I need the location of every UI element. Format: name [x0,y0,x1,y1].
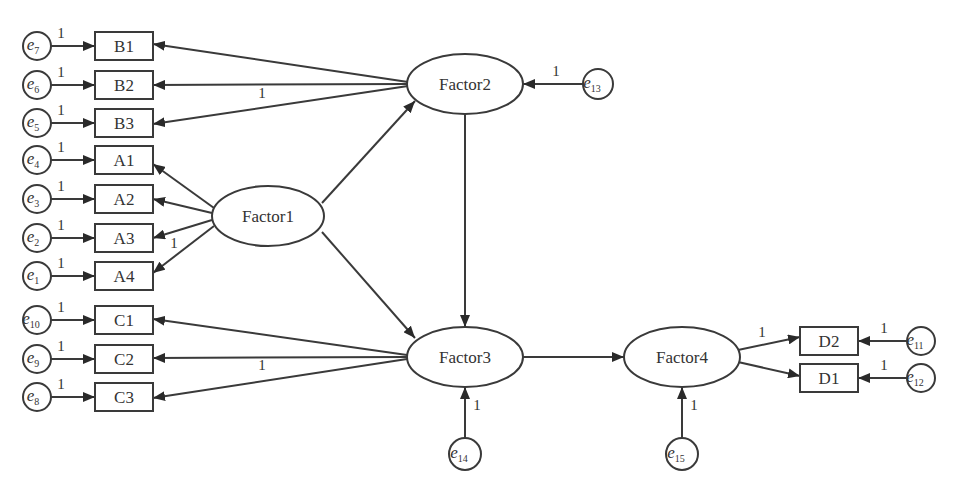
observed-label: C3 [114,388,134,407]
path-weight-label: 1 [57,299,65,315]
observed-variable-b1: B1 [95,32,153,60]
error-term-e10: e10 [22,306,51,334]
path-weight-label: 1 [258,85,266,101]
factor-label: Factor4 [656,348,708,367]
latent-factor-factor3: Factor3 [407,327,523,387]
observed-variable-a2: A2 [95,185,153,213]
error-term-e13: e13 [583,69,613,99]
observed-label: A1 [114,151,135,170]
error-subscript: 4 [34,159,39,170]
error-subscript: 12 [914,377,924,388]
error-term-e11: e11 [906,327,935,355]
error-term-e7: e7 [23,32,51,60]
path-arrow-factor1-to-a4 [153,226,214,273]
latent-factor-factor2: Factor2 [407,54,523,114]
path-weight-label: 1 [57,102,65,118]
error-subscript: 1 [34,275,39,286]
path-arrow-factor3-to-c2 [153,357,407,358]
factor-label: Factor2 [439,75,491,94]
observed-label: B3 [114,114,134,133]
path-weight-label: 1 [57,64,65,80]
path-weight-label: 1 [57,178,65,194]
path-arrow-factor4-to-d2 [738,337,800,350]
error-term-e4: e4 [23,146,51,174]
path-weight-label: 1 [758,324,766,340]
path-weight-label: 1 [57,255,65,271]
error-subscript: 8 [34,396,39,407]
observed-label: B1 [114,37,134,56]
error-term-e15: e15 [666,438,698,470]
observed-label: D1 [819,369,840,388]
observed-label: B2 [114,76,134,95]
factor-label: Factor1 [242,207,294,226]
observed-variable-d2: D2 [800,327,858,355]
observed-label: D2 [819,332,840,351]
path-weight-label: 1 [880,320,888,336]
path-weight-label: 1 [57,25,65,41]
error-term-e2: e2 [23,224,51,252]
path-arrow-factor1-to-factor3 [322,232,415,338]
observed-label: A3 [114,229,135,248]
path-arrow-factor1-to-factor2 [322,101,415,203]
factor-label: Factor3 [439,348,491,367]
path-weight-label: 1 [170,235,178,251]
observed-variable-c3: C3 [95,383,153,411]
observed-variable-c2: C2 [95,345,153,373]
observed-variable-c1: C1 [95,306,153,334]
path-weight-label: 1 [473,397,481,413]
path-arrow-factor2-to-b2 [153,84,408,85]
error-subscript: 3 [34,198,39,209]
path-arrow-factor3-to-c3 [153,359,407,398]
error-term-e9: e9 [23,345,51,373]
error-term-e14: e14 [449,438,481,470]
path-weight-label: 1 [690,397,698,413]
error-subscript: 13 [591,83,601,94]
error-term-e5: e5 [23,109,51,137]
error-subscript: 2 [34,237,39,248]
path-weight-label: 1 [57,139,65,155]
path-arrow-factor4-to-d1 [738,362,800,376]
path-arrow-factor3-to-c1 [153,319,407,355]
path-weight-label: 1 [57,217,65,233]
observed-variable-b3: B3 [95,109,153,137]
path-weight-label: 1 [880,357,888,373]
observed-label: C1 [114,311,134,330]
error-subscript: 9 [34,358,39,369]
sem-path-diagram: 1111111111111111111 B1B2B3A1A2A3A4C1C2C3… [0,0,955,487]
observed-variable-b2: B2 [95,71,153,99]
path-arrow-factor2-to-b1 [153,44,408,82]
error-term-e3: e3 [23,185,51,213]
error-subscript: 10 [30,319,40,330]
error-term-e1: e1 [23,262,51,290]
path-arrow-factor2-to-b3 [153,86,408,124]
observed-label: A2 [114,190,135,209]
observed-variable-a3: A3 [95,224,153,252]
observed-label: C2 [114,350,134,369]
error-subscript: 5 [34,122,39,133]
latent-factor-factor1: Factor1 [212,186,324,246]
observed-variable-a4: A4 [95,262,153,290]
error-term-e6: e6 [23,71,51,99]
error-subscript: 11 [914,340,924,351]
path-weight-label: 1 [57,338,65,354]
error-subscript: 15 [675,453,685,464]
path-weight-label: 1 [57,376,65,392]
error-subscript: 14 [458,453,468,464]
observed-label: A4 [114,267,135,286]
error-term-e8: e8 [23,383,51,411]
error-subscript: 6 [34,84,39,95]
path-weight-label: 1 [552,63,560,79]
error-term-e12: e12 [906,364,935,392]
observed-variable-d1: D1 [800,364,858,392]
path-weight-label: 1 [258,357,266,373]
observed-variable-a1: A1 [95,146,153,174]
error-subscript: 7 [34,45,39,56]
latent-factor-factor4: Factor4 [624,327,740,387]
